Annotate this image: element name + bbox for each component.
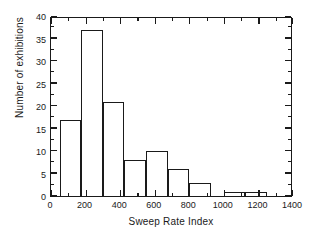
histogram-bar — [103, 102, 125, 197]
y-axis-minor-tick-right — [288, 139, 291, 140]
histogram-bar — [60, 120, 82, 197]
x-axis-tick — [155, 190, 156, 196]
y-axis-tick — [51, 127, 57, 128]
histogram-bar — [168, 169, 190, 196]
x-axis-tick-top — [258, 18, 259, 24]
y-axis-minor-tick — [51, 139, 54, 140]
histogram-figure: 0510152025303540 02004006008001000120014… — [0, 0, 312, 236]
y-tick-label: 15 — [24, 125, 46, 135]
y-tick-label: 10 — [24, 147, 46, 157]
plot-frame — [50, 17, 292, 197]
y-axis-tick — [51, 37, 57, 38]
y-axis-tick — [51, 60, 57, 61]
x-axis-tick-top — [51, 18, 52, 24]
x-axis-minor-tick-top — [207, 18, 208, 21]
y-axis-tick-right — [285, 105, 291, 106]
x-axis-minor-tick-top — [137, 18, 138, 21]
histogram-bar — [245, 192, 267, 197]
x-axis-tick-top — [189, 18, 190, 24]
x-axis-minor-tick-top — [68, 18, 69, 21]
y-axis-tick — [51, 195, 57, 196]
y-axis-tick-right — [285, 37, 291, 38]
x-axis-tick — [292, 190, 293, 196]
y-axis-minor-tick-right — [288, 94, 291, 95]
y-axis-tick-right — [285, 16, 291, 17]
x-axis-tick — [189, 190, 190, 196]
x-axis-tick — [120, 190, 121, 196]
y-tick-label: 40 — [24, 12, 46, 22]
y-axis-tick-right — [285, 127, 291, 128]
x-axis-tick-top — [292, 18, 293, 24]
y-axis-minor-tick — [51, 26, 54, 27]
y-axis-minor-tick-right — [288, 49, 291, 50]
x-axis-tick — [224, 190, 225, 196]
y-axis-tick-right — [285, 172, 291, 173]
y-axis-minor-tick-right — [288, 26, 291, 27]
y-tick-label: 30 — [24, 57, 46, 67]
y-axis-tick-right — [285, 60, 291, 61]
x-axis-minor-tick — [241, 193, 242, 196]
y-axis-minor-tick — [51, 184, 54, 185]
x-axis-tick-top — [224, 18, 225, 24]
histogram-bar — [124, 160, 146, 196]
y-axis-tick-right — [285, 150, 291, 151]
x-axis-tick-top — [155, 18, 156, 24]
x-axis-title: Sweep Rate Index — [50, 216, 292, 227]
y-axis-minor-tick — [51, 116, 54, 117]
y-axis-minor-tick — [51, 71, 54, 72]
x-axis-minor-tick — [103, 193, 104, 196]
y-axis-tick-right — [285, 82, 291, 83]
x-axis-tick-top — [86, 18, 87, 24]
histogram-bar — [81, 30, 103, 197]
y-axis-tick — [51, 150, 57, 151]
x-axis-minor-tick-top — [103, 18, 104, 21]
y-axis-minor-tick-right — [288, 161, 291, 162]
y-axis-minor-tick-right — [288, 71, 291, 72]
y-axis-tick — [51, 105, 57, 106]
x-axis-minor-tick — [68, 193, 69, 196]
y-tick-label: 35 — [24, 35, 46, 45]
x-axis-minor-tick — [276, 193, 277, 196]
y-axis-tick — [51, 172, 57, 173]
y-tick-label: 20 — [24, 102, 46, 112]
x-axis-minor-tick-top — [241, 18, 242, 21]
y-axis-minor-tick — [51, 94, 54, 95]
x-axis-tick — [258, 190, 259, 196]
y-axis-title: Number of exhibitions — [14, 3, 25, 133]
x-axis-minor-tick — [137, 193, 138, 196]
x-axis-minor-tick — [207, 193, 208, 196]
y-tick-label: 5 — [24, 170, 46, 180]
x-axis-minor-tick — [172, 193, 173, 196]
y-tick-label: 25 — [24, 80, 46, 90]
y-axis-minor-tick — [51, 49, 54, 50]
x-axis-minor-tick-top — [276, 18, 277, 21]
y-axis-minor-tick-right — [288, 184, 291, 185]
y-axis-tick-right — [285, 195, 291, 196]
x-tick-label: 1400 — [272, 200, 312, 210]
y-axis-minor-tick-right — [288, 116, 291, 117]
x-axis-tick-top — [120, 18, 121, 24]
y-axis-minor-tick — [51, 161, 54, 162]
x-axis-tick — [86, 190, 87, 196]
y-axis-tick — [51, 82, 57, 83]
histogram-bar — [146, 151, 168, 196]
x-axis-minor-tick-top — [172, 18, 173, 21]
plot-area — [51, 18, 291, 196]
y-axis-tick — [51, 16, 57, 17]
